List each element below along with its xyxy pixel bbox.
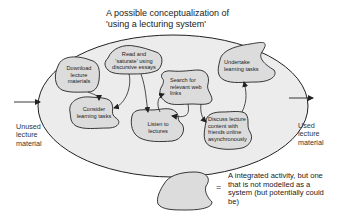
activity-listen: Listen to lectures [136, 121, 180, 134]
activity-consider: Consider learning tasks [72, 106, 116, 119]
activity-read: Read and 'saturate' using discursive ess… [108, 51, 160, 71]
legend-equals: = [216, 182, 221, 192]
legend-text: A integrated activity, but one that is n… [228, 172, 324, 206]
activity-discuss: Discuss lecture content with friends onl… [208, 116, 247, 142]
activity-search: Search for relevant web links [170, 77, 202, 97]
output-label: Used lecture material [298, 122, 324, 147]
legend-blob [157, 172, 212, 210]
input-label: Unused lecture material [16, 123, 42, 148]
activity-download: Download lecture materials [60, 65, 98, 85]
activity-undertake: Undertake learning tasks [224, 59, 259, 72]
